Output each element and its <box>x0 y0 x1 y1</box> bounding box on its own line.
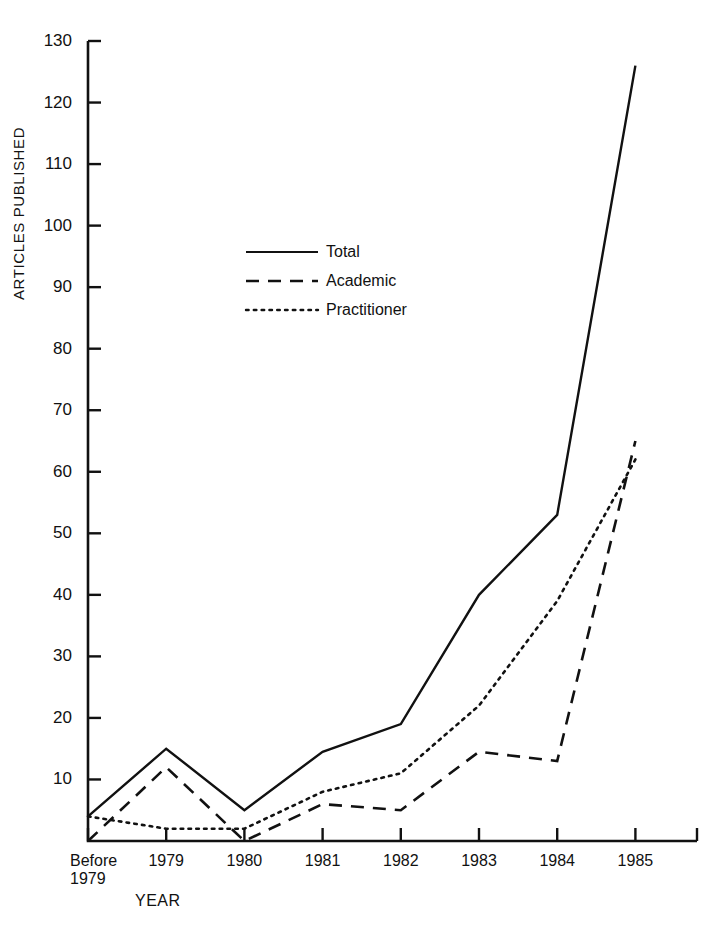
y-tick-label: 30 <box>26 647 72 664</box>
y-tick-label: 40 <box>26 586 72 603</box>
y-tick-label: 20 <box>26 709 72 726</box>
y-tick-label: 100 <box>26 217 72 234</box>
y-tick-label: 60 <box>26 463 72 480</box>
x-tick-label: 1979 <box>122 852 210 870</box>
legend-label-academic: Academic <box>326 272 396 290</box>
x-tick-label: 1984 <box>513 852 601 870</box>
y-tick-label: 50 <box>26 524 72 541</box>
series-line-academic <box>88 441 635 841</box>
y-tick-label: 70 <box>26 401 72 418</box>
y-tick-label: 80 <box>26 340 72 357</box>
y-tick-label: 90 <box>26 278 72 295</box>
x-tick-label: 1981 <box>279 852 367 870</box>
plot-area <box>0 0 718 927</box>
x-tick-label: 1982 <box>357 852 445 870</box>
x-tick-label: 1983 <box>435 852 523 870</box>
y-tick-label: 10 <box>26 770 72 787</box>
y-tick-label: 130 <box>26 32 72 49</box>
x-tick-label: 1985 <box>591 852 679 870</box>
x-tick-label: 1980 <box>200 852 288 870</box>
chart-figure: ARTICLES PUBLISHED 130120110100908070605… <box>0 0 718 927</box>
legend-label-practitioner: Practitioner <box>326 301 407 319</box>
x-axis-title: YEAR <box>135 892 181 910</box>
y-tick-label: 120 <box>26 94 72 111</box>
series-line-practitioner <box>88 459 635 828</box>
y-tick-label: 110 <box>26 155 72 172</box>
legend-label-total: Total <box>326 243 360 261</box>
series-line-total <box>88 66 635 817</box>
